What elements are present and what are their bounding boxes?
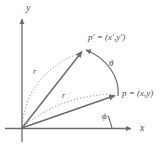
rotation-arc [86, 50, 118, 96]
phi-angle-label: ϕ [102, 112, 107, 121]
x-axis-label: x [140, 123, 144, 133]
y-axis-label: y [26, 3, 30, 13]
phi-angle-arc [108, 116, 112, 129]
radius-inner-label: r [62, 92, 65, 100]
rotation-diagram: y x p′ = (x′,y′) p = (x,y) r r θ ϕ [0, 0, 167, 147]
radius-outer-label: r [33, 68, 36, 76]
point-p-label: p = (x,y) [122, 89, 153, 98]
theta-angle-label: θ [109, 59, 113, 68]
vector-to-p-prime [22, 52, 82, 129]
point-p-prime-label: p′ = (x′,y′) [88, 33, 125, 42]
